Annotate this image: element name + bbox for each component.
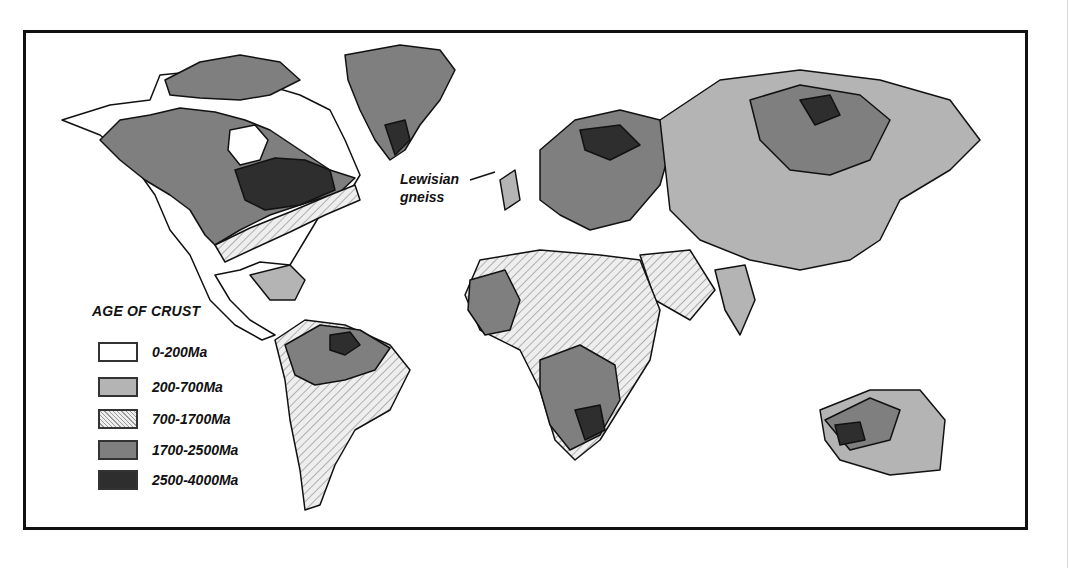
india <box>715 265 755 335</box>
legend-swatch <box>98 440 138 460</box>
british-isles <box>500 170 520 210</box>
legend-label: 200-700Ma <box>152 379 223 395</box>
legend-item-200-700ma: 200-700Ma <box>98 377 223 397</box>
annotation-leader-line <box>470 172 495 180</box>
legend-item-1700-2500ma: 1700-2500Ma <box>98 440 238 460</box>
annotation-line-1: Lewisian <box>400 170 459 188</box>
legend-swatch <box>98 377 138 397</box>
legend-item-700-1700ma: 700-1700Ma <box>98 409 231 429</box>
legend-swatch <box>98 342 138 362</box>
legend-label: 0-200Ma <box>152 344 207 360</box>
legend-title: AGE OF CRUST <box>92 303 200 319</box>
central-africa-shield <box>540 345 620 450</box>
legend-item-0-200ma: 0-200Ma <box>98 342 207 362</box>
legend-item-2500-4000ma: 2500-4000Ma <box>98 470 238 490</box>
legend-label: 1700-2500Ma <box>152 442 238 458</box>
legend-label: 700-1700Ma <box>152 411 231 427</box>
annotation-line-2: gneiss <box>400 188 459 206</box>
legend-swatch <box>98 470 138 490</box>
legend-swatch <box>98 409 138 429</box>
legend-label: 2500-4000Ma <box>152 472 238 488</box>
page-edge-line <box>1067 0 1068 568</box>
australia-archean <box>835 422 865 445</box>
central-america <box>250 265 305 300</box>
lewisian-gneiss-label: Lewisian gneiss <box>400 170 459 206</box>
